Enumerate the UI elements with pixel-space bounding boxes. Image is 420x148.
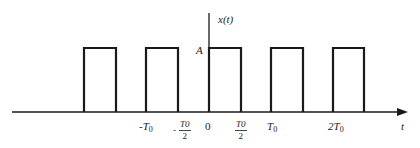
pulse [84,48,116,112]
x-axis-arrow-icon [397,108,408,116]
x-axis-label: t [401,121,404,132]
pulse [146,48,178,112]
y-axis-label: x(t) [218,14,233,25]
pulse [271,48,303,112]
amplitude-label: A [196,45,203,56]
tick-2T0: 2T0 [328,121,344,134]
tick-neg-T0: -T0 [139,121,153,134]
pulse [333,48,364,112]
tick-zero: 0 [205,121,211,132]
tick-neg-T0-half: - T0 2 [179,120,191,141]
pulse [209,48,241,112]
tick-T0-half: T0 2 [235,120,247,141]
pulses [84,48,364,112]
tick-T0: T0 [267,121,277,134]
